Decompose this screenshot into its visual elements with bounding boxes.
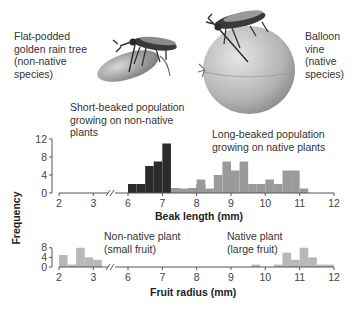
x-tick-label: 11 — [294, 197, 305, 209]
histogram-bar — [171, 189, 180, 194]
y-tick-label: 12 — [35, 133, 47, 145]
histogram-bar — [291, 260, 300, 267]
fruit-radius-histogram: 048236789101112 — [41, 241, 340, 283]
histogram-bar — [291, 171, 300, 194]
x-tick-label: 8 — [194, 197, 200, 209]
histogram-bar — [188, 189, 197, 194]
x-tick-label: 6 — [125, 271, 131, 283]
beak-length-axis-title: Beak length (mm) — [155, 210, 243, 222]
histogram-bar — [162, 144, 171, 194]
y-tick-label: 8 — [41, 151, 47, 163]
x-tick-label: 2 — [56, 197, 62, 209]
histogram-bar — [205, 189, 214, 194]
histogram-bar — [222, 162, 231, 194]
x-tick-label: 3 — [90, 271, 96, 283]
histogram-bar — [85, 257, 94, 267]
histogram-bar — [197, 180, 206, 194]
x-tick-label: 7 — [159, 197, 165, 209]
histogram-bar — [240, 162, 249, 194]
x-tick-label: 2 — [56, 271, 62, 283]
histogram-bar — [145, 166, 154, 193]
x-tick-label: 7 — [159, 271, 165, 283]
x-tick-label: 9 — [228, 197, 234, 209]
histogram-bar — [137, 184, 146, 193]
x-tick-label: 10 — [259, 197, 271, 209]
histogram-bar — [257, 184, 266, 193]
histogram-charts: 04812236789101112048236789101112 — [0, 0, 355, 315]
histogram-bar — [300, 189, 309, 194]
x-tick-label: 11 — [294, 271, 305, 283]
histogram-bar — [300, 248, 309, 267]
histogram-bar — [76, 248, 85, 267]
x-tick-label: 12 — [328, 271, 340, 283]
histogram-bar — [154, 162, 163, 194]
histogram-bar — [214, 175, 223, 193]
x-tick-label: 6 — [125, 197, 131, 209]
histogram-bar — [128, 184, 137, 193]
histogram-bar — [282, 253, 291, 267]
histogram-bar — [93, 260, 102, 267]
histogram-bar — [59, 255, 68, 267]
x-tick-label: 8 — [194, 271, 200, 283]
x-tick-label: 12 — [328, 197, 340, 209]
x-tick-label: 3 — [90, 197, 96, 209]
x-tick-label: 9 — [228, 271, 234, 283]
histogram-bar — [248, 184, 257, 193]
histogram-bar — [231, 171, 240, 194]
y-tick-label: 0 — [41, 187, 47, 199]
beak-length-histogram: 04812236789101112 — [35, 133, 340, 210]
histogram-bar — [274, 184, 283, 193]
histogram-bar — [282, 171, 291, 194]
histogram-bar — [308, 257, 317, 267]
histogram-bar — [265, 180, 274, 194]
histogram-bar — [179, 189, 188, 194]
y-tick-label: 4 — [41, 169, 47, 181]
x-tick-label: 10 — [259, 271, 271, 283]
fruit-radius-axis-title: Fruit radius (mm) — [150, 286, 236, 298]
y-tick-label: 8 — [41, 241, 47, 253]
